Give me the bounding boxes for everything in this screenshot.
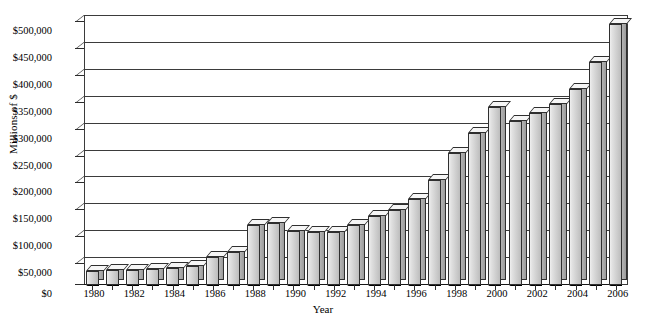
x-axis-tick-label: 1984 [164, 288, 185, 299]
x-axis-tick [435, 285, 436, 290]
x-axis-tick [152, 285, 153, 290]
bar-column [126, 264, 139, 285]
bar-column [408, 193, 421, 285]
bar-column [146, 263, 159, 285]
bar-front-face [609, 24, 622, 285]
y-axis-tick [75, 236, 84, 237]
bar-front-face [227, 252, 240, 285]
bar-front-face [106, 270, 119, 285]
x-axis-tick-label: 1992 [325, 288, 346, 299]
bar-side-face [522, 116, 527, 280]
x-axis-tick-label: 1988 [245, 288, 266, 299]
bar-column [206, 251, 219, 285]
bar-column [529, 107, 542, 285]
bar-side-face [582, 84, 587, 280]
x-axis-tick [273, 285, 274, 290]
x-axis-tick [596, 285, 597, 290]
bar-front-face [347, 225, 360, 285]
x-axis-tick [112, 285, 113, 290]
x-axis-tick-label: 2006 [607, 288, 628, 299]
x-axis-tick-label: 2000 [486, 288, 507, 299]
x-axis-tick-label: 1990 [285, 288, 306, 299]
y-axis-tick-label: $450,000 [0, 51, 52, 62]
bar-side-face [260, 220, 265, 280]
bar-side-face [622, 19, 627, 280]
bar-front-face [368, 216, 381, 285]
y-axis-tick [75, 156, 84, 157]
x-axis-tick [354, 285, 355, 290]
y-axis-tick [75, 209, 84, 210]
bar-column [227, 246, 240, 285]
bar-front-face [488, 107, 501, 285]
x-axis-tick-label: 1980 [84, 288, 105, 299]
bar-column [347, 219, 360, 285]
bar-front-face [267, 223, 280, 285]
bar-side-face [461, 148, 466, 280]
bar-side-face [381, 211, 386, 280]
x-axis-tick [233, 285, 234, 290]
bar-column [307, 226, 320, 285]
gridline [84, 96, 628, 97]
bar-top-face [609, 18, 632, 24]
bar-column [247, 219, 260, 285]
y-axis-tick [75, 263, 84, 264]
bar-front-face [549, 104, 562, 285]
y-axis-tick-label: $100,000 [0, 240, 52, 251]
y-axis-tick-label: $250,000 [0, 159, 52, 170]
bar-column [327, 226, 340, 285]
bar-column [267, 217, 280, 285]
bar-column [509, 115, 522, 285]
bar-front-face [247, 225, 260, 285]
x-axis-tick-label: 1994 [366, 288, 387, 299]
bar-column [549, 98, 562, 285]
x-axis-tick-label: 1986 [204, 288, 225, 299]
bar-top-face [488, 101, 511, 107]
y-axis-tick [75, 21, 84, 22]
x-axis-tick-label: 2004 [567, 288, 588, 299]
gridline [84, 15, 628, 16]
bar-side-face [602, 57, 607, 280]
y-axis-tick [75, 48, 84, 49]
bar-column [106, 264, 119, 285]
bar-side-face [501, 102, 506, 280]
chart-container: Millions of $ $0$50,000$100,000$150,000$… [0, 0, 646, 323]
bar-column [569, 83, 582, 285]
bar-top-face [267, 217, 290, 223]
bar-front-face [86, 271, 99, 285]
right-axis-tick [621, 15, 628, 16]
bar-front-face [529, 113, 542, 285]
bar-column [186, 260, 199, 285]
plot-area: $0$50,000$100,000$150,000$200,000$250,00… [75, 9, 628, 285]
y-axis-tick-label: $50,000 [0, 267, 52, 278]
bar-side-face [340, 227, 345, 280]
bar-front-face [569, 89, 582, 285]
y-axis-tick-label: $0 [0, 288, 52, 299]
bar-front-face [388, 210, 401, 285]
bar-front-face [186, 266, 199, 285]
bar-side-face [562, 99, 567, 280]
y-axis-tick-label: $350,000 [0, 105, 52, 116]
y-axis-tick [75, 284, 84, 285]
bar-column [86, 265, 99, 285]
bar-side-face [421, 194, 426, 280]
y-axis-tick [75, 102, 84, 103]
x-axis-tick-label: 1998 [446, 288, 467, 299]
x-axis-tick [394, 285, 395, 290]
bar-side-face [401, 205, 406, 280]
bar-front-face [146, 269, 159, 285]
x-axis-tick [193, 285, 194, 290]
bar-front-face [448, 153, 461, 285]
bar-column [287, 225, 300, 285]
bar-column [388, 204, 401, 285]
bar-column [609, 18, 622, 285]
x-axis-tick-label: 1996 [406, 288, 427, 299]
gridline [84, 42, 628, 43]
y-axis-tick-label: $400,000 [0, 78, 52, 89]
bar-front-face [327, 232, 340, 285]
x-axis-tick [555, 285, 556, 290]
bar-side-face [360, 220, 365, 280]
bar-column [166, 262, 179, 285]
bar-front-face [468, 133, 481, 285]
bar-column [488, 101, 501, 285]
x-axis-tick-label: 2002 [527, 288, 548, 299]
